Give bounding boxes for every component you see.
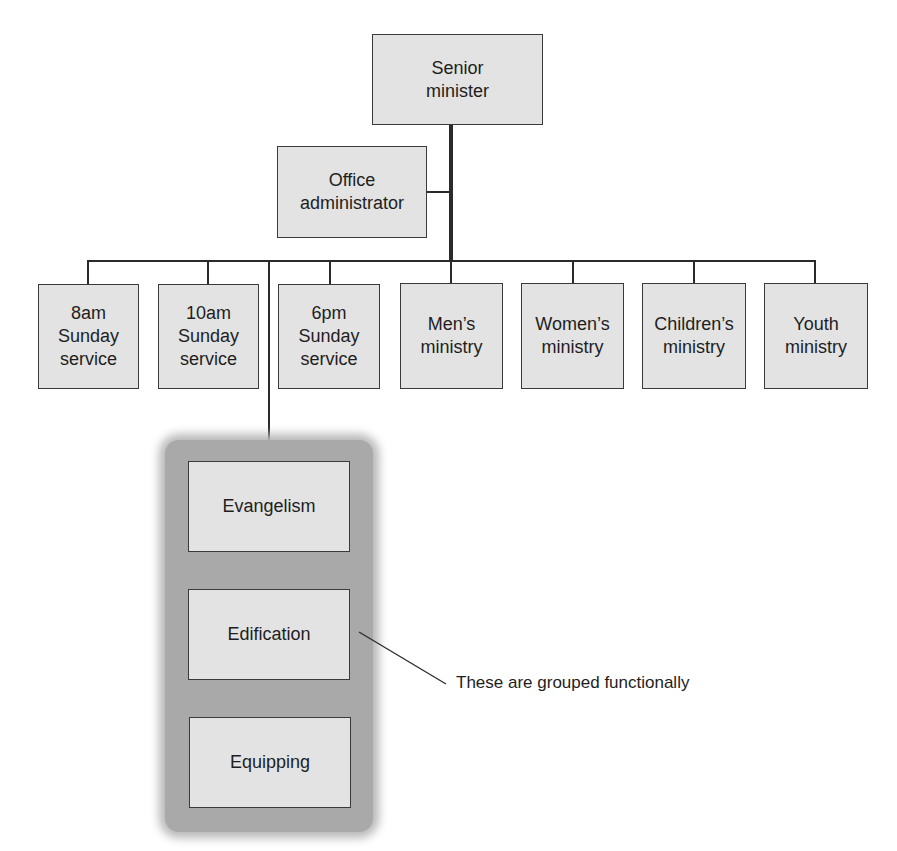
- annotation-text: These are grouped functionally: [456, 673, 689, 693]
- annotation-leader-line: [0, 0, 897, 851]
